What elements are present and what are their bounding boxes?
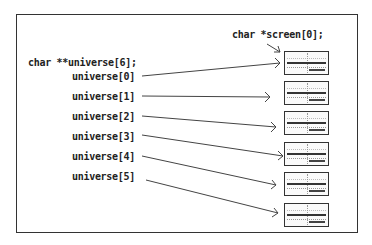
pointer-arrows	[0, 0, 372, 245]
